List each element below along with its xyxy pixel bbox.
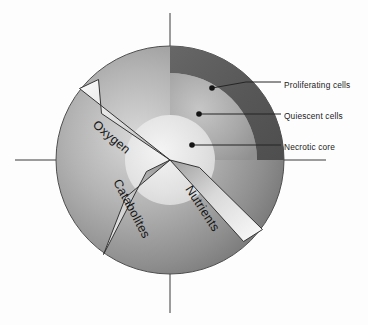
callout-label-quiescent-cells: Quiescent cells <box>284 111 343 121</box>
callout-dot-quiescent <box>196 111 202 117</box>
callout-label-proliferating-cells: Proliferating cells <box>284 80 350 90</box>
spheroid-diagram-canvas: Oxygen Catabolites Nutrients <box>0 0 368 325</box>
callout-dot-proliferating <box>209 85 215 91</box>
callout-dot-necrotic <box>189 142 195 148</box>
callout-label-necrotic-core: Necrotic core <box>284 142 335 152</box>
